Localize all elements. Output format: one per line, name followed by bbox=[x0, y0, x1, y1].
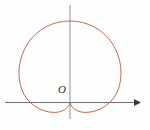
cardioid-figure: O bbox=[0, 0, 150, 130]
x-axis-arrowhead-icon bbox=[134, 99, 141, 106]
origin-label: O bbox=[58, 84, 66, 95]
plot-canvas bbox=[0, 0, 150, 130]
